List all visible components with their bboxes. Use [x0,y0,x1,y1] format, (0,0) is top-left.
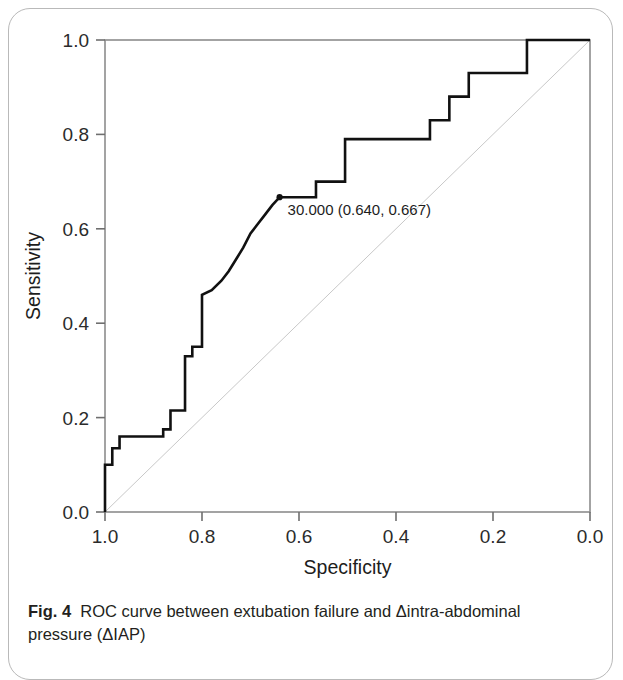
x-axis-tick-label: 0.2 [480,526,506,547]
y-axis-tick-label: 0.8 [63,124,89,145]
x-axis-tick-label: 0.6 [286,526,312,547]
x-axis-tick-label: 0.8 [189,526,215,547]
figure-caption: Fig. 4 ROC curve between extubation fail… [28,600,588,647]
x-axis-title: Specificity [304,556,392,578]
roc-cutoff-label: 30.000 (0.640, 0.667) [288,201,431,218]
y-axis-tick-label: 1.0 [63,30,89,51]
figure-caption-text: ROC curve between extubation failure and… [28,602,521,643]
x-axis-tick-label: 1.0 [92,526,118,547]
y-axis-tick-label: 0.0 [63,502,89,523]
y-axis-tick-label: 0.6 [63,219,89,240]
y-axis-tick-label: 0.2 [63,408,89,429]
x-axis-tick-label: 0.4 [383,526,410,547]
roc-chart: 1.00.80.60.40.20.00.00.20.40.60.81.0Spec… [0,0,623,600]
roc-plot-area: 1.00.80.60.40.20.00.00.20.40.60.81.0Spec… [0,0,623,600]
y-axis-title: Sensitivity [22,232,44,320]
roc-cutoff-marker [277,194,283,200]
y-axis-tick-label: 0.4 [63,313,90,334]
x-axis-tick-label: 0.0 [577,526,603,547]
figure-number: Fig. 4 [28,602,80,620]
reference-diagonal-line [105,40,590,512]
